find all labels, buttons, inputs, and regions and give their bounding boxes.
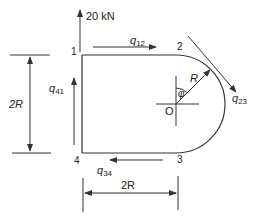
section-outline [82,55,225,153]
q34-subscript: 34 [103,169,112,178]
svg-text:q34: q34 [97,164,113,178]
width-label: 2R [121,179,135,191]
node-4-label: 4 [74,155,80,166]
svg-text:q23: q23 [232,92,248,106]
height-label: 2R [8,98,23,110]
svg-text:q41: q41 [49,82,65,96]
svg-text:q12: q12 [130,34,146,48]
q23-subscript: 23 [238,97,247,106]
shear-flow-q41: q41 [49,78,74,145]
q41-subscript: 41 [55,87,64,96]
q12-subscript: 12 [136,39,145,48]
shear-flow-q12: q12 [93,34,156,48]
node-3-label: 3 [177,154,183,165]
shear-flow-q34: q34 [97,160,163,178]
load-arrow: 20 kN [80,10,115,52]
shear-flow-diagram: 20 kN 1 2 3 4 q12 q23 O R φ q34 q [0,0,254,219]
radius-label: R [190,72,198,84]
angle-label: φ [178,88,185,99]
center-label: O [165,105,174,117]
load-label: 20 kN [86,10,115,22]
shear-flow-q23: q23 [188,36,248,106]
node-2-label: 2 [177,41,183,52]
node-1-label: 1 [71,46,77,57]
